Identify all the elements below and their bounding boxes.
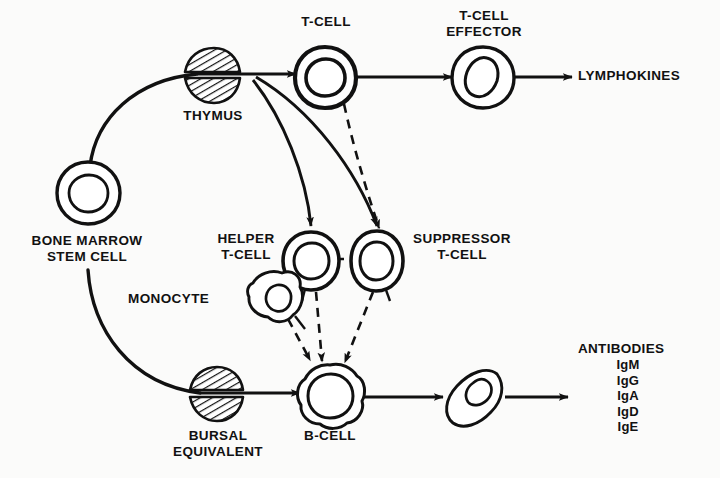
antibody-class-list: IgMIgGIgAIgDIgE	[578, 357, 708, 435]
label-suppressor-t-cell: SUPPRESSOR T-CELL	[404, 231, 520, 262]
antibody-class-igg: IgG	[578, 373, 678, 389]
cell-bone-marrow-stem-cell	[57, 162, 120, 224]
antibody-class-ige: IgE	[578, 419, 678, 435]
edge-helper-to-bcell-dashed	[316, 292, 322, 361]
label-t-cell-effector: T-CELL EFFECTOR	[432, 8, 536, 39]
antibody-class-igm: IgM	[578, 357, 678, 373]
edge-suppressor-to-bcell-dashed	[345, 292, 373, 362]
cell-monocyte	[248, 272, 305, 329]
cell-suppressor-t-cell	[351, 231, 403, 301]
edge-tcell-to-suppressor-dashed	[344, 104, 379, 228]
label-b-cell: B-CELL	[292, 428, 368, 444]
cell-t-cell	[295, 47, 356, 108]
label-monocyte: MONOCYTE	[128, 291, 240, 307]
antibody-class-igd: IgD	[578, 404, 678, 420]
label-bursal-equivalent: BURSAL EQUIVALENT	[156, 428, 280, 459]
label-t-cell: T-CELL	[281, 14, 371, 30]
cell-b-cell	[298, 364, 365, 428]
antibody-class-iga: IgA	[578, 388, 678, 404]
label-bone-marrow-stem-cell: BONE MARROW STEM CELL	[12, 233, 162, 264]
label-lymphokines: LYMPHOKINES	[578, 68, 718, 84]
label-thymus: THYMUS	[165, 108, 261, 124]
label-helper-t-cell: HELPER T-CELL	[206, 231, 286, 262]
diagram-canvas: BONE MARROW STEM CELL THYMUS BURSAL EQUI…	[0, 0, 720, 478]
cell-plasma-cell	[447, 370, 502, 426]
cell-t-cell-effector	[452, 47, 514, 108]
label-antibodies-title: ANTIBODIES	[578, 341, 708, 357]
edge-monocyte-to-bcell-dashed	[288, 319, 310, 360]
edge-thymus-to-helper	[253, 80, 311, 226]
